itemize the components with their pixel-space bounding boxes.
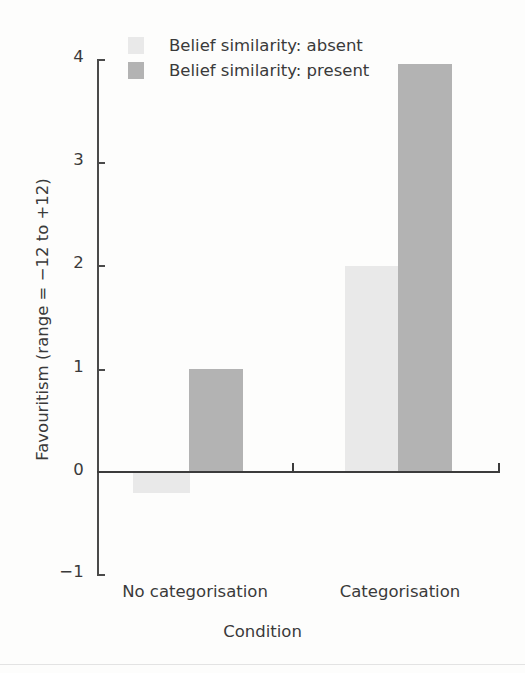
y-tick-3 <box>97 162 105 164</box>
plot-area: Belief similarity: absent Belief similar… <box>0 0 525 673</box>
legend-label-absent: Belief similarity: absent <box>169 36 363 55</box>
y-axis-title: Favouritism (range = −12 to +12) <box>33 110 52 530</box>
legend-label-present: Belief similarity: present <box>169 61 369 80</box>
x-tick-middle <box>292 463 294 472</box>
legend-item-present: Belief similarity: present <box>128 58 369 83</box>
y-axis-line <box>97 59 99 575</box>
legend-item-absent: Belief similarity: absent <box>128 33 369 58</box>
chart-figure: Belief similarity: absent Belief similar… <box>0 0 525 673</box>
y-tick-4 <box>97 59 105 61</box>
page-edge-line <box>0 664 525 665</box>
x-label-no-categorisation: No categorisation <box>90 582 300 601</box>
bar-no-categorisation-present <box>189 369 243 472</box>
x-axis-title: Condition <box>0 622 525 641</box>
bar-categorisation-present <box>398 64 452 472</box>
legend-swatch-present-icon <box>128 62 144 79</box>
y-tick-2 <box>97 265 105 267</box>
y-tick-minus-1 <box>97 574 105 576</box>
legend-swatch-absent-icon <box>128 37 144 54</box>
legend: Belief similarity: absent Belief similar… <box>128 33 369 83</box>
y-tick-label-4: 4 <box>44 47 84 66</box>
x-label-categorisation: Categorisation <box>310 582 490 601</box>
y-tick-label-minus-1: −1 <box>44 562 84 581</box>
bar-categorisation-absent <box>345 266 399 472</box>
y-tick-1 <box>97 369 105 371</box>
x-axis-zero-line <box>97 471 500 473</box>
x-tick-right-end <box>498 463 500 472</box>
bar-no-categorisation-absent <box>133 472 190 493</box>
